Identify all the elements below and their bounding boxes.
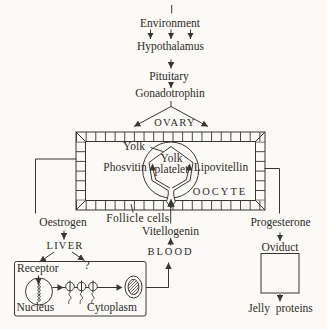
protein-vesicle: [125, 276, 142, 298]
arrows-environment-hypothalamus: [151, 30, 191, 40]
yolk-label: Yolk: [123, 141, 145, 152]
ribosome-2: [77, 281, 86, 305]
arrow-liver-unknown: [72, 252, 85, 261]
nucleus-label: Nucleus: [17, 302, 55, 313]
vitellogenesis-diagram: Environment Hypothalamus Pituitary Gonad…: [0, 0, 327, 329]
node-oestrogen: Oestrogen: [39, 217, 86, 228]
oocyte-label: OOCYTE: [193, 186, 248, 197]
chromatin-squiggle: [38, 282, 41, 302]
unknown-target-label: ?: [84, 260, 89, 271]
arrow-liver-blood: [146, 263, 169, 288]
line-ovary-oestrogen: [36, 159, 77, 214]
node-blood: BLOOD: [147, 246, 193, 257]
oviduct-label: Oviduct: [261, 242, 298, 253]
jelly-proteins-label: Jelly proteins: [248, 303, 313, 314]
node-hypothalamus: Hypothalamus: [137, 41, 204, 52]
cytoplasm-label: Cytoplasm: [87, 302, 137, 313]
oviduct-box-rect: [261, 254, 299, 294]
node-environment: Environment: [140, 18, 200, 29]
phosvitin-label: Phosvitin: [103, 162, 146, 173]
receptor-label: Receptor: [17, 263, 59, 274]
follicle-cells-label: Follicle cells: [106, 213, 169, 224]
node-vitellogenin: Vitellogenin: [142, 226, 199, 237]
node-ovary: OVARY: [154, 117, 195, 128]
node-pituitary: Pituitary: [149, 71, 189, 82]
yolk-platelet-label: Yolkplatelet: [155, 153, 189, 176]
arrow-liver-receptor: [40, 252, 55, 262]
lipovitellin-label: Lipovitellin: [194, 162, 248, 173]
ribosome-1: [66, 281, 75, 305]
node-progesterone: Progesterone: [250, 217, 310, 228]
node-liver: LIVER: [47, 240, 84, 251]
node-gonadotrophin: Gonadotrophin: [135, 88, 205, 99]
mrna-line: [53, 284, 123, 290]
line-ovary-progesterone: [265, 169, 280, 214]
